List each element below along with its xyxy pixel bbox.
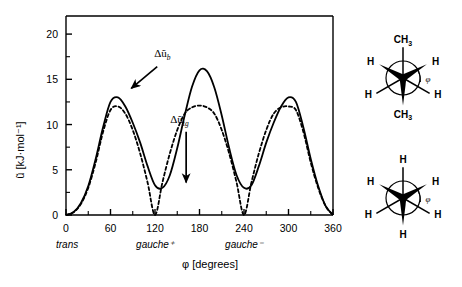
newman-atom-label: H	[434, 89, 441, 100]
newman-atom-label: H	[432, 176, 439, 187]
conformer-label: trans	[56, 239, 78, 250]
x-tick-label: 120	[146, 222, 164, 234]
y-axis-ticks	[66, 34, 72, 215]
chart-annotations: Δũb Δũtg	[131, 47, 189, 183]
ethane-newman-projection: HHHHHHφ	[365, 154, 442, 239]
x-tick-label: 360	[324, 222, 342, 234]
newman-svg: CH3CH3HHHHφ HHHHHHφ	[345, 0, 462, 287]
curve-dashed	[66, 106, 333, 215]
x-tick-label: 60	[105, 222, 117, 234]
newman-atom-label: CH3	[394, 34, 412, 47]
conformer-state-labels: transgauche⁺gauche⁻	[56, 239, 264, 250]
newman-atom-label: H	[367, 56, 374, 67]
newman-back-bond	[376, 79, 401, 93]
newman-atom-label: H	[432, 56, 439, 67]
y-tick-label: 0	[52, 209, 58, 221]
annotation-symbol: Δũ	[154, 47, 167, 59]
newman-atom-label: H	[365, 89, 372, 100]
delta-u-b-arrow	[131, 67, 157, 89]
conformer-label: gauche⁻	[225, 239, 264, 250]
delta-u-b-label: Δũb	[154, 47, 171, 62]
newman-back-bond	[376, 199, 401, 213]
y-tick-label: 5	[52, 164, 58, 176]
newman-front-bond	[400, 78, 407, 106]
newman-front-bond	[379, 64, 405, 81]
newman-front-bond	[401, 184, 427, 201]
newman-front-bond	[400, 198, 407, 226]
newman-phi-symbol: φ	[426, 74, 431, 84]
figure-root: 05101520 060120180240300360 transgauche⁺…	[0, 0, 462, 287]
y-axis-tick-labels: 05101520	[46, 28, 58, 221]
newman-atom-label: H	[399, 154, 406, 165]
conformer-label: gauche⁺	[136, 239, 175, 250]
y-tick-label: 10	[46, 119, 58, 131]
x-axis-title: φ [degrees]	[182, 258, 238, 270]
newman-atom-label: H	[434, 209, 441, 220]
x-axis-ticks	[66, 209, 333, 215]
x-tick-label: 240	[235, 222, 253, 234]
curve-solid	[66, 69, 333, 215]
newman-front-bond	[401, 64, 427, 81]
newman-atom-subscript: 3	[408, 40, 412, 47]
annotation-subscript: tg	[183, 119, 189, 128]
y-tick-label: 15	[46, 73, 58, 85]
newman-atom-label: H	[399, 229, 406, 240]
newman-projection-panel: CH3CH3HHHHφ HHHHHHφ	[345, 0, 462, 287]
annotation-symbol: Δũ	[170, 113, 183, 125]
newman-phi-symbol: φ	[426, 194, 431, 204]
x-axis-tick-labels: 060120180240300360	[63, 222, 342, 234]
newman-atom-label: CH3	[394, 109, 412, 122]
newman-atom-subscript: 3	[408, 114, 412, 121]
x-tick-label: 300	[280, 222, 298, 234]
x-tick-label: 180	[191, 222, 209, 234]
x-tick-label: 0	[63, 222, 69, 234]
newman-front-bond	[379, 184, 405, 201]
newman-atom-label: H	[367, 176, 374, 187]
newman-atom-label: H	[365, 209, 372, 220]
chart-svg: 05101520 060120180240300360 transgauche⁺…	[0, 0, 345, 287]
annotation-subscript: b	[167, 53, 171, 62]
y-axis-title: ũ [kJ·mol⁻¹]	[14, 121, 26, 178]
torsional-potential-chart: 05101520 060120180240300360 transgauche⁺…	[0, 0, 345, 287]
y-tick-label: 20	[46, 28, 58, 40]
data-curves	[66, 69, 333, 215]
butane-newman-projection: CH3CH3HHHHφ	[365, 34, 442, 121]
